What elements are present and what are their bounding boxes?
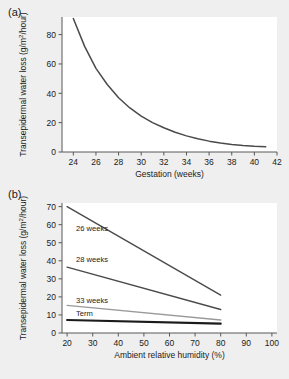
panel-b-plot: 2030405060708090100010203040506070Ambien… [0,185,289,379]
y-tick-label: 60 [47,59,57,69]
y-axis-title: Transepidermal water loss (g/m2/hour) [17,196,29,341]
series-annotation: Term [76,309,93,318]
x-axis-title: Ambient relative humidity (%) [114,350,225,360]
x-tick-label: 28 [114,157,124,167]
x-tick-label: 40 [114,338,124,348]
x-tick-label: 20 [62,338,72,348]
y-tick-label: 0 [51,147,56,157]
x-tick-label: 80 [216,338,226,348]
x-tick-label: 38 [227,157,237,167]
y-tick-label: 30 [47,274,57,284]
y-tick-label: 20 [47,118,57,128]
x-tick-label: 32 [159,157,169,167]
x-tick-label: 42 [272,157,282,167]
y-tick-label: 60 [47,220,57,230]
panel-b-label: (b) [8,188,21,200]
series-annotation: 26 weeks [76,224,108,233]
x-tick-label: 30 [88,338,98,348]
y-tick-label: 70 [47,202,57,212]
x-tick-label: 70 [190,338,200,348]
panel-a-plot: 24262830323436384042020406080Gestation (… [0,0,289,190]
y-axis-title: Transepidermal water loss (g/m2/hour) [17,12,29,157]
x-tick-label: 24 [69,157,79,167]
y-tick-label: 80 [47,30,57,40]
x-tick-label: 60 [165,338,175,348]
y-tick-label: 20 [47,292,57,302]
x-tick-label: 90 [242,338,252,348]
y-tick-label: 40 [47,89,57,99]
panel-a-label: (a) [8,6,21,18]
y-axis-title-group: Transepidermal water loss (g/m2/hour) [17,12,29,157]
y-tick-label: 10 [47,310,57,320]
panel-a: (a) 24262830323436384042020406080Gestati… [0,0,289,190]
x-axis-title: Gestation (weeks) [135,169,204,179]
x-tick-label: 100 [265,338,279,348]
series-annotation: 33 weeks [76,296,108,305]
x-tick-label: 30 [136,157,146,167]
x-tick-label: 40 [250,157,260,167]
y-tick-label: 50 [47,238,57,248]
y-tick-label: 0 [51,328,56,338]
y-axis-title-group: Transepidermal water loss (g/m2/hour) [17,196,29,341]
series-annotation: 28 weeks [76,255,108,264]
x-tick-label: 26 [91,157,101,167]
x-tick-label: 36 [204,157,214,167]
figure-container: (a) 24262830323436384042020406080Gestati… [0,0,289,379]
x-tick-label: 50 [139,338,149,348]
x-tick-label: 34 [182,157,192,167]
y-tick-label: 40 [47,256,57,266]
panel-b: (b) 2030405060708090100010203040506070Am… [0,185,289,379]
plot-background [62,17,277,152]
